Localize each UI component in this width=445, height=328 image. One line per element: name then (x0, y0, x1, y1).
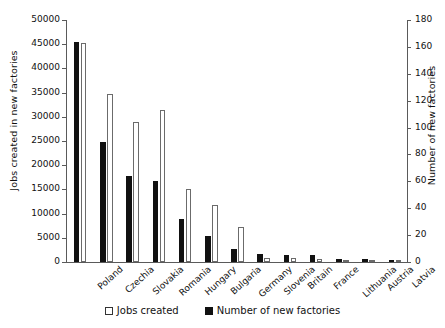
left-axis-tick (62, 262, 66, 263)
left-axis-tick-label: 5000 (6, 233, 60, 242)
right-axis-tick-label: 140 (415, 69, 445, 78)
bar-number-of-new-factories (389, 260, 395, 262)
bar-jobs-created (291, 258, 297, 262)
bar-number-of-new-factories (179, 219, 185, 262)
bar-number-of-new-factories (153, 181, 159, 262)
bar-jobs-created (343, 260, 349, 262)
category-label-latvia: Latvia (410, 264, 437, 290)
bar-number-of-new-factories (205, 236, 211, 262)
left-axis-tick (62, 165, 66, 166)
left-axis-tick-label: 15000 (6, 184, 60, 193)
bar-number-of-new-factories (100, 142, 106, 262)
right-axis-tick-label: 120 (415, 96, 445, 105)
left-axis-tick-label: 30000 (6, 112, 60, 121)
left-axis-tick (62, 68, 66, 69)
left-axis-tick (62, 238, 66, 239)
left-axis-tick (62, 141, 66, 142)
right-axis-tick-label: 100 (415, 123, 445, 132)
bar-group (277, 20, 303, 262)
legend-item: Number of new factories (205, 305, 340, 316)
left-axis-tick-label: 35000 (6, 88, 60, 97)
right-axis-tick-label: 40 (415, 203, 445, 212)
left-axis-tick-label: 10000 (6, 209, 60, 218)
bar-jobs-created (238, 227, 244, 262)
bar-jobs-created (396, 260, 402, 262)
chart-legend: Jobs createdNumber of new factories (0, 305, 445, 316)
bar-number-of-new-factories (74, 42, 80, 262)
bar-number-of-new-factories (126, 176, 132, 262)
left-axis-tick-label: 45000 (6, 39, 60, 48)
bar-group (119, 20, 145, 262)
bar-group (198, 20, 224, 262)
bar-number-of-new-factories (336, 259, 342, 262)
bar-jobs-created (317, 259, 323, 262)
right-axis-tick-label: 180 (415, 15, 445, 24)
bar-group (146, 20, 172, 262)
bar-number-of-new-factories (310, 255, 316, 262)
left-axis-tick-label: 50000 (6, 15, 60, 24)
legend-label: Jobs created (117, 305, 179, 316)
bar-chart: Jobs created in new factories Number of … (0, 0, 445, 328)
bar-jobs-created (264, 258, 270, 262)
right-axis-tick-label: 160 (415, 42, 445, 51)
left-axis-tick (62, 117, 66, 118)
bar-series-container (67, 20, 408, 262)
bar-jobs-created (186, 189, 192, 262)
left-axis-tick (62, 44, 66, 45)
left-axis-tick-label: 25000 (6, 136, 60, 145)
bar-group (329, 20, 355, 262)
bar-group (172, 20, 198, 262)
right-axis-tick-label: 20 (415, 230, 445, 239)
category-label-france: France (332, 264, 361, 291)
plot-area: 0500010000150002000025000300003500040000… (66, 20, 408, 262)
bar-group (356, 20, 382, 262)
bar-group (224, 20, 250, 262)
bar-number-of-new-factories (362, 259, 368, 262)
category-axis-labels: PolandCzechiaSlovakiaRomaniaHungaryBulga… (66, 264, 408, 310)
bar-group (93, 20, 119, 262)
left-axis-tick (62, 214, 66, 215)
bar-group (303, 20, 329, 262)
left-axis-tick-label: 20000 (6, 160, 60, 169)
bar-group (382, 20, 408, 262)
legend-label: Number of new factories (217, 305, 340, 316)
bar-jobs-created (212, 205, 218, 262)
right-axis-tick-label: 80 (415, 149, 445, 158)
category-label-poland: Poland (96, 264, 125, 292)
left-axis-tick (62, 189, 66, 190)
bar-number-of-new-factories (257, 254, 263, 262)
bar-group (251, 20, 277, 262)
bar-group (67, 20, 93, 262)
legend-swatch-icon (205, 307, 213, 315)
left-axis-tick-label: 40000 (6, 63, 60, 72)
left-axis-title-container: Jobs created in new factories (0, 55, 14, 255)
left-axis-tick (62, 93, 66, 94)
legend-swatch-icon (105, 307, 113, 315)
right-axis-tick-label: 60 (415, 176, 445, 185)
bar-jobs-created (133, 122, 139, 262)
left-axis-tick-label: 0 (6, 257, 60, 266)
bar-jobs-created (369, 260, 375, 262)
legend-item: Jobs created (105, 305, 179, 316)
bar-number-of-new-factories (231, 249, 237, 262)
right-axis-tick (407, 262, 411, 263)
bar-number-of-new-factories (284, 255, 290, 262)
bar-jobs-created (160, 110, 166, 262)
bar-jobs-created (81, 43, 87, 262)
bar-jobs-created (107, 94, 113, 262)
left-axis-tick (62, 20, 66, 21)
